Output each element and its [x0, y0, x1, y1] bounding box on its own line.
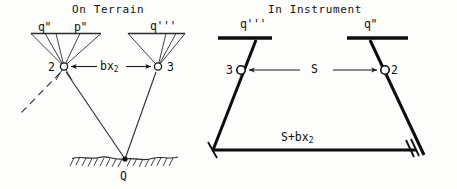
station-label-3-instrument: 3	[226, 65, 233, 77]
panel-title-in-instrument: In Instrument	[268, 4, 362, 15]
ray-label-q-double-prime: q"	[38, 22, 51, 34]
baseline-label-subscript: 2	[114, 65, 119, 74]
ground-point-label-q: Q	[120, 171, 127, 183]
base-total-label-base: S+bx	[281, 130, 309, 144]
station-label-2-terrain: 2	[48, 62, 55, 74]
plate-label-q-triple-prime: q'''	[240, 19, 266, 31]
station-label-2-instrument: 2	[391, 65, 398, 77]
ray-label-p-double-prime: p"	[74, 22, 87, 34]
ray-label-q-triple-prime: q'''	[150, 21, 176, 33]
figure-canvas: On Terrain In Instrument q" p" q''' 2 3 …	[0, 0, 457, 189]
station-label-3-terrain: 3	[167, 62, 174, 74]
base-total-label-subscript: 2	[309, 136, 314, 145]
ground-terrain-symbol	[70, 156, 178, 167]
on-terrain-left-fan	[20, 34, 125, 160]
instrument-left-assembly	[208, 38, 272, 158]
panel-title-on-terrain: On Terrain	[72, 4, 144, 15]
base-total-label: S+bx2	[281, 132, 314, 145]
instrument-right-assembly	[347, 38, 424, 157]
on-terrain-right-fan	[125, 34, 185, 160]
plate-label-q-double-prime: q"	[364, 19, 377, 31]
diagram-vector-layer	[0, 0, 457, 189]
baseline-label-base: bx	[100, 59, 114, 73]
separation-label-s: S	[311, 64, 318, 76]
baseline-label-bx2: bx2	[100, 61, 119, 74]
